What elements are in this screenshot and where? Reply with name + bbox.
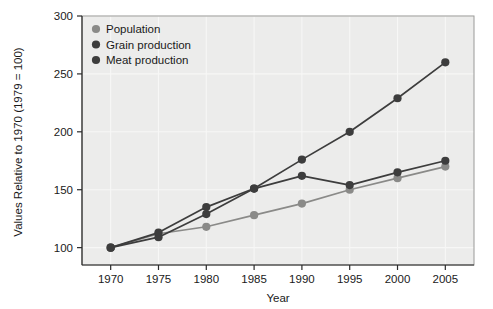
- data-point: [393, 168, 401, 176]
- x-axis-tick-label: 1985: [241, 273, 267, 285]
- x-axis-tick-label: 2000: [385, 273, 411, 285]
- data-point: [298, 172, 306, 180]
- legend-marker-icon: [92, 56, 100, 64]
- data-point: [202, 203, 210, 211]
- y-axis-title: Values Relative to 1970 (1979 = 100): [12, 47, 24, 237]
- data-point: [154, 228, 162, 236]
- data-point: [298, 156, 306, 164]
- x-axis-tick-label: 1980: [193, 273, 219, 285]
- legend-label: Meat production: [106, 54, 188, 66]
- y-axis-tick-label: 300: [54, 10, 73, 22]
- y-axis-tick-label: 200: [54, 126, 73, 138]
- y-axis-tick-label: 250: [54, 68, 73, 80]
- data-point: [346, 181, 354, 189]
- x-axis-tick-label: 1995: [337, 273, 363, 285]
- x-axis-tick-label: 1990: [289, 273, 315, 285]
- data-point: [393, 94, 401, 102]
- data-point: [250, 211, 258, 219]
- y-axis-tick-label: 150: [54, 184, 73, 196]
- data-point: [107, 244, 115, 252]
- legend-label: Grain production: [106, 39, 191, 51]
- legend-label: Population: [106, 23, 160, 35]
- chart-figure: 100150200250300 197019751980198519901995…: [0, 0, 493, 309]
- x-axis-tick-label: 2005: [433, 273, 459, 285]
- data-point: [346, 128, 354, 136]
- legend-item: Meat production: [92, 54, 189, 66]
- legend-marker-icon: [92, 40, 100, 48]
- data-point: [441, 58, 449, 66]
- x-axis-tick-label: 1970: [98, 273, 124, 285]
- data-point: [441, 157, 449, 165]
- data-point: [202, 223, 210, 231]
- legend-item: Grain production: [92, 39, 191, 51]
- line-chart: 100150200250300 197019751980198519901995…: [0, 0, 493, 309]
- x-axis-title: Year: [266, 292, 289, 304]
- data-point: [250, 184, 258, 192]
- x-axis-tick-label: 1975: [146, 273, 172, 285]
- data-point: [298, 200, 306, 208]
- y-axis-tick-label: 100: [54, 242, 73, 254]
- legend-marker-icon: [92, 25, 100, 33]
